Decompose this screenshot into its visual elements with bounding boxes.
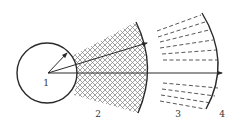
label-1: 1 xyxy=(43,78,49,88)
dashed-lines-lower xyxy=(160,83,218,109)
label-2: 2 xyxy=(95,109,101,119)
dashed-lines-upper xyxy=(157,15,218,60)
diagram-canvas: 1 2 3 4 xyxy=(0,0,241,126)
diagram-svg: 1 2 3 4 xyxy=(0,0,241,126)
label-3: 3 xyxy=(175,109,181,119)
hatched-region xyxy=(72,22,147,113)
label-4: 4 xyxy=(219,109,225,119)
